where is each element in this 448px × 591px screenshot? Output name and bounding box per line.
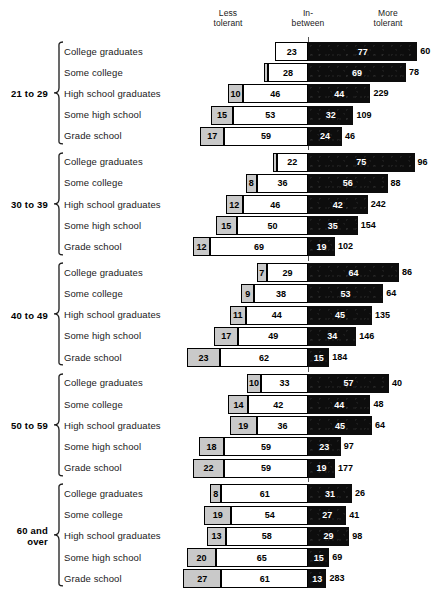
group-brace [52, 41, 64, 147]
bar-segment-more-tolerant: 69 [308, 63, 406, 82]
bar-segment-more-tolerant: 77 [308, 42, 417, 61]
sample-size-label: 283 [329, 572, 344, 585]
bar-segment-in-between: 46 [243, 195, 308, 214]
bar-segment-less-tolerant: 14 [228, 395, 248, 414]
bar-segment-in-between: 33 [261, 374, 308, 393]
bar-segment-more-tolerant: 13 [308, 569, 326, 588]
education-label: Some college [64, 288, 123, 299]
education-label: Some high school [64, 109, 141, 120]
bar-segment-in-between: 59 [224, 437, 308, 456]
bar-segment-less-tolerant: 10 [228, 84, 242, 103]
bar-segment-more-tolerant: 45 [308, 416, 372, 435]
bar-segment-in-between: 54 [231, 506, 308, 525]
bar-segment-in-between: 23 [275, 42, 308, 61]
bar-segment-more-tolerant: 45 [308, 306, 372, 325]
sample-size-label: 60 [420, 45, 430, 58]
bar-segment-in-between: 36 [257, 416, 308, 435]
group-brace [52, 262, 64, 368]
bar-segment-in-between: 50 [237, 216, 308, 235]
bar-segment-more-tolerant: 75 [308, 153, 415, 172]
bar-segment-more-tolerant: 23 [308, 437, 341, 456]
baseline-divider [308, 367, 309, 372]
sample-size-label: 78 [409, 66, 419, 79]
sample-size-label: 64 [375, 419, 385, 432]
bar-segment-less-tolerant: 15 [211, 106, 232, 125]
bar-segment-in-between: 69 [210, 237, 308, 256]
sample-size-label: 26 [355, 487, 365, 500]
bar-segment-in-between: 58 [226, 527, 308, 546]
group-brace [52, 152, 64, 258]
age-group-label: 40 to 49 [0, 310, 48, 321]
bar-segment-in-between: 65 [216, 548, 308, 567]
bar-segment-more-tolerant: 44 [308, 84, 370, 103]
bar-segment-more-tolerant: 27 [308, 506, 346, 525]
bar-segment-less-tolerant: 12 [226, 195, 243, 214]
bar-segment-more-tolerant: 15 [308, 548, 329, 567]
education-label: Grade school [64, 130, 122, 141]
bar-segment-less-tolerant: 8 [210, 484, 221, 503]
bar-segment-more-tolerant: 53 [308, 284, 383, 303]
bar-segment-more-tolerant: 57 [308, 374, 389, 393]
bar-segment-more-tolerant: 19 [308, 459, 335, 478]
education-label: Some college [64, 177, 123, 188]
sample-size-label: 46 [345, 130, 355, 143]
sample-size-label: 109 [356, 109, 371, 122]
sample-size-label: 135 [375, 309, 390, 322]
bar-segment-less-tolerant: 19 [230, 416, 257, 435]
bar-segment-in-between: 22 [277, 153, 308, 172]
bar-segment-less-tolerant: 7 [257, 263, 267, 282]
education-label: High school graduates [64, 199, 161, 210]
age-group-label: 30 to 39 [0, 199, 48, 210]
column-header-less-tolerant: Less tolerant [196, 8, 260, 28]
education-label: Grade school [64, 352, 122, 363]
bar-segment-less-tolerant: 17 [200, 127, 224, 146]
education-label: High school graduates [64, 88, 161, 99]
bar-segment-in-between: 46 [243, 84, 308, 103]
baseline-divider [308, 478, 309, 483]
baseline-divider [308, 256, 309, 261]
bar-segment-more-tolerant: 29 [308, 527, 349, 546]
age-group-label: 21 to 29 [0, 88, 48, 99]
sample-size-label: 184 [332, 351, 347, 364]
sample-size-label: 154 [361, 219, 376, 232]
education-label: College graduates [64, 267, 143, 278]
education-label: College graduates [64, 377, 143, 388]
education-label: Some high school [64, 330, 141, 341]
bar-segment-less-tolerant: 9 [241, 284, 254, 303]
bar-segment-less-tolerant: 13 [207, 527, 225, 546]
education-label: Some high school [64, 441, 141, 452]
sample-size-label: 229 [373, 87, 388, 100]
bar-segment-in-between: 38 [254, 284, 308, 303]
sample-size-label: 48 [373, 398, 383, 411]
education-label: Grade school [64, 573, 122, 584]
group-brace [52, 373, 64, 479]
education-label: High school graduates [64, 530, 161, 541]
bar-segment-less-tolerant: 12 [193, 237, 210, 256]
bar-segment-less-tolerant: 19 [204, 506, 231, 525]
sample-size-label: 98 [352, 530, 362, 543]
bar-segment-in-between: 61 [221, 569, 308, 588]
bar-segment-in-between: 42 [248, 395, 308, 414]
age-group-label: 60 and over [0, 525, 48, 547]
bar-segment-less-tolerant: 23 [187, 348, 220, 367]
bar-segment-in-between: 49 [238, 327, 308, 346]
education-label: Some high school [64, 220, 141, 231]
bar-segment-in-between: 61 [221, 484, 308, 503]
group-brace [52, 483, 64, 589]
bar-segment-less-tolerant: 20 [187, 548, 215, 567]
bar-segment-in-between: 59 [224, 127, 308, 146]
education-label: Grade school [64, 241, 122, 252]
sample-size-label: 69 [332, 551, 342, 564]
sample-size-label: 242 [371, 198, 386, 211]
bar-segment-less-tolerant: 17 [214, 327, 238, 346]
tolerance-by-age-education-chart: Less tolerant In- between More tolerant … [0, 0, 448, 591]
education-label: College graduates [64, 46, 143, 57]
sample-size-label: 41 [349, 509, 359, 522]
education-label: High school graduates [64, 420, 161, 431]
bar-segment-more-tolerant: 64 [308, 263, 399, 282]
bar-segment-more-tolerant: 56 [308, 174, 388, 193]
sample-size-label: 102 [338, 240, 353, 253]
education-label: College graduates [64, 156, 143, 167]
bar-segment-in-between: 29 [267, 263, 308, 282]
bar-segment-more-tolerant: 24 [308, 127, 342, 146]
